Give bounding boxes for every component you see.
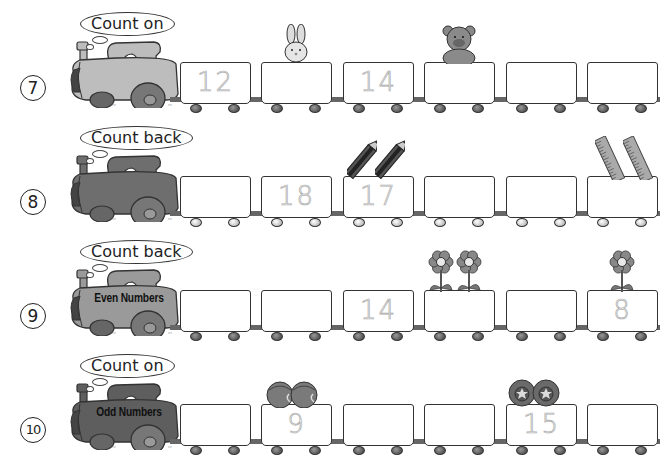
- wheel-icon: [190, 104, 202, 113]
- wheel-icon: [434, 332, 446, 341]
- given-number: 8: [588, 295, 657, 325]
- rabbit-icon: [281, 24, 311, 68]
- wheel-icon: [391, 446, 403, 455]
- wheel-icon: [434, 104, 446, 113]
- bubble-tail: [92, 264, 108, 272]
- train-car-answer-box[interactable]: [424, 290, 495, 332]
- train-car-answer-box[interactable]: [424, 404, 495, 446]
- wheel-icon: [516, 218, 528, 227]
- wheel-icon: [391, 218, 403, 227]
- wheel-icon: [635, 332, 647, 341]
- wheel-icon: [271, 218, 283, 227]
- wheel-icon: [554, 104, 566, 113]
- bubble-tail: [86, 272, 94, 278]
- svg-text:,,: ,,: [112, 327, 116, 334]
- wheel-icon: [554, 332, 566, 341]
- given-number: 14: [344, 295, 413, 325]
- wheel-icon: [635, 446, 647, 455]
- train-car-answer-box[interactable]: 14: [343, 62, 414, 104]
- wheel-icon: [353, 218, 365, 227]
- wheel-icon: [554, 218, 566, 227]
- train-car-answer-box[interactable]: [343, 404, 414, 446]
- train-car-answer-box[interactable]: [424, 176, 495, 218]
- wheel-icon: [597, 446, 609, 455]
- wheel-icon: [353, 332, 365, 341]
- instruction-bubble: Count on: [80, 12, 175, 36]
- wheel-icon: [554, 446, 566, 455]
- train-car-answer-box[interactable]: [506, 62, 577, 104]
- given-number: 18: [262, 181, 331, 211]
- instruction-bubble: Count back: [80, 126, 193, 150]
- given-number: 9: [262, 409, 331, 439]
- train-car-answer-box[interactable]: 14: [343, 290, 414, 332]
- instruction-bubble: Count back: [80, 240, 193, 264]
- train-car-answer-box[interactable]: [424, 62, 495, 104]
- wheel-icon: [635, 104, 647, 113]
- wheel-icon: [516, 446, 528, 455]
- wheel-icon: [228, 332, 240, 341]
- flower-icon: [609, 250, 635, 296]
- wheel-icon: [472, 332, 484, 341]
- wheel-icon: [190, 218, 202, 227]
- pencil-icon: [347, 138, 377, 186]
- question-number: 8: [20, 189, 46, 215]
- train-row-9: 9 ,, ,, Even NumbersCount back148: [0, 232, 668, 344]
- train-car-answer-box[interactable]: 8: [587, 290, 658, 332]
- wheel-icon: [391, 104, 403, 113]
- wheel-icon: [271, 446, 283, 455]
- ball-icon: [289, 380, 319, 412]
- given-number: 12: [181, 67, 250, 97]
- train-car-answer-box[interactable]: [180, 404, 251, 446]
- wheel-icon: [597, 218, 609, 227]
- question-number: 9: [20, 303, 46, 329]
- train-car-answer-box[interactable]: [506, 176, 577, 218]
- train-car-answer-box[interactable]: [587, 404, 658, 446]
- bubble-tail: [86, 386, 94, 392]
- wheel-icon: [190, 332, 202, 341]
- bubble-tail: [92, 378, 108, 386]
- pencil-icon: [375, 138, 405, 186]
- svg-text:,,: ,,: [112, 99, 116, 106]
- train-car-answer-box[interactable]: [180, 290, 251, 332]
- bubble-tail: [92, 36, 108, 44]
- ruler-icon: [623, 136, 653, 184]
- teddy-bear-icon: [436, 22, 482, 68]
- given-number: 15: [507, 409, 576, 439]
- instruction-bubble: Count on: [80, 354, 175, 378]
- wheel-icon: [391, 332, 403, 341]
- bubble-tail: [86, 158, 94, 164]
- wheel-icon: [353, 446, 365, 455]
- question-number: 7: [20, 75, 46, 101]
- wheel-icon: [228, 446, 240, 455]
- wheel-icon: [597, 332, 609, 341]
- train-car-answer-box[interactable]: 18: [261, 176, 332, 218]
- wheel-icon: [228, 218, 240, 227]
- wheel-icon: [309, 332, 321, 341]
- engine-label: Odd Numbers: [91, 405, 168, 419]
- wheel-icon: [353, 104, 365, 113]
- wheel-icon: [228, 104, 240, 113]
- train-car-answer-box[interactable]: [261, 290, 332, 332]
- wheel-icon: [309, 218, 321, 227]
- svg-text:,,: ,,: [112, 213, 116, 220]
- train-car-answer-box[interactable]: [587, 62, 658, 104]
- flower-icon: [456, 250, 482, 296]
- wheel-icon: [472, 104, 484, 113]
- question-number: 10: [20, 417, 46, 443]
- wheel-icon: [309, 104, 321, 113]
- wheel-icon: [309, 446, 321, 455]
- train-car-answer-box[interactable]: 12: [180, 62, 251, 104]
- train-car-answer-box[interactable]: [261, 62, 332, 104]
- train-row-10: 10 ,, ,, Odd NumbersCount on915: [0, 346, 668, 457]
- train-car-answer-box[interactable]: [180, 176, 251, 218]
- bubble-tail: [86, 44, 94, 50]
- wheel-icon: [271, 104, 283, 113]
- wheel-icon: [472, 218, 484, 227]
- wheel-icon: [271, 332, 283, 341]
- ruler-icon: [595, 136, 625, 184]
- train-car-answer-box[interactable]: [506, 290, 577, 332]
- train-row-7: 7 ,, ,, Count on1214: [0, 4, 668, 116]
- wheel-icon: [516, 332, 528, 341]
- wheel-icon: [434, 446, 446, 455]
- wheel-icon: [635, 218, 647, 227]
